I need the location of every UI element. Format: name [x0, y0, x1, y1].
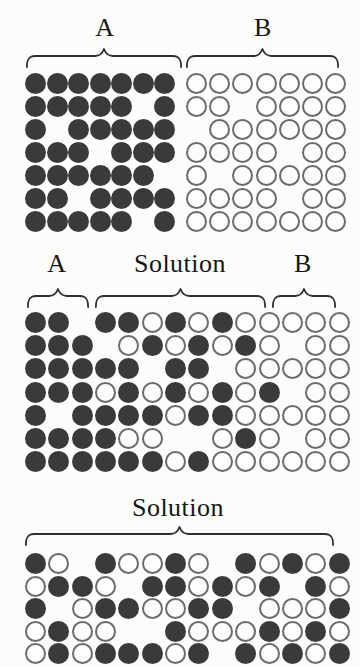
particle-a-filled: [133, 188, 154, 209]
particle-b-open: [256, 96, 277, 117]
particle-a-filled: [188, 643, 209, 664]
particle-b-open: [329, 576, 350, 597]
particle-b-open: [235, 358, 256, 379]
particle-a-filled: [68, 142, 89, 163]
particle-a-filled: [188, 451, 209, 472]
particle-a-filled: [47, 188, 68, 209]
particle-a-filled: [142, 451, 163, 472]
particle-b-open: [256, 165, 277, 186]
particle-b-open: [259, 428, 280, 449]
particle-a-filled: [329, 643, 350, 664]
particle-b-open: [329, 358, 350, 379]
particle-b-open: [212, 451, 233, 472]
particle-a-filled: [212, 312, 233, 333]
particle-a-filled: [72, 576, 93, 597]
particle-a-filled: [47, 211, 68, 232]
particle-b-open: [325, 142, 346, 163]
particle-a-filled: [90, 211, 111, 232]
particle-a-filled: [154, 188, 175, 209]
particle-a-filled: [111, 96, 132, 117]
particle-b-open: [209, 211, 230, 232]
particle-a-filled: [118, 598, 139, 619]
particle-a-filled: [142, 643, 163, 664]
particle-a-filled: [259, 382, 280, 403]
particle-b-open: [259, 643, 280, 664]
particle-a-filled: [48, 451, 69, 472]
particle-a-filled: [25, 188, 46, 209]
particle-a-filled: [212, 576, 233, 597]
particle-a-filled: [95, 598, 116, 619]
particle-b-open: [209, 119, 230, 140]
particle-a-filled: [95, 312, 116, 333]
particle-b-open: [142, 553, 163, 574]
particle-a-filled: [154, 73, 175, 94]
particle-b-open: [48, 553, 69, 574]
particle-b-open: [212, 621, 233, 642]
particle-a-filled: [48, 621, 69, 642]
particle-a-filled: [188, 335, 209, 356]
particle-a-filled: [90, 165, 111, 186]
particle-a-filled: [154, 142, 175, 163]
particle-a-filled: [72, 405, 93, 426]
particle-b-open: [186, 96, 207, 117]
particle-b-open: [165, 335, 186, 356]
particle-b-open: [118, 335, 139, 356]
particle-b-open: [188, 576, 209, 597]
particle-a-filled: [90, 73, 111, 94]
particle-b-open: [118, 553, 139, 574]
particle-b-open: [305, 405, 326, 426]
particle-b-open: [232, 211, 253, 232]
particle-b-open: [95, 382, 116, 403]
particle-b-open: [282, 598, 303, 619]
particle-b-open: [188, 621, 209, 642]
particle-a-filled: [133, 165, 154, 186]
particle-a-filled: [165, 312, 186, 333]
particle-b-open: [329, 335, 350, 356]
particle-b-open: [235, 382, 256, 403]
particle-b-open: [186, 165, 207, 186]
particle-a-filled: [329, 598, 350, 619]
particle-a-filled: [47, 142, 68, 163]
particle-b-open: [209, 188, 230, 209]
particle-b-open: [302, 96, 323, 117]
particle-b-open: [325, 211, 346, 232]
particle-a-filled: [25, 335, 46, 356]
particle-b-open: [72, 621, 93, 642]
particle-a-filled: [188, 358, 209, 379]
particle-b-open: [142, 598, 163, 619]
particle-a-filled: [95, 553, 116, 574]
particle-a-filled: [235, 643, 256, 664]
particle-a-filled: [95, 358, 116, 379]
particle-a-filled: [47, 73, 68, 94]
particle-b-open: [232, 165, 253, 186]
particle-b-open: [302, 142, 323, 163]
particle-a-filled: [165, 621, 186, 642]
particle-b-open: [165, 405, 186, 426]
particle-a-filled: [111, 119, 132, 140]
particle-b-open: [325, 188, 346, 209]
particle-b-open: [259, 553, 280, 574]
particle-b-open: [209, 73, 230, 94]
particle-a-filled: [142, 576, 163, 597]
particle-a-filled: [95, 405, 116, 426]
particle-a-filled: [118, 312, 139, 333]
particle-b-open: [259, 598, 280, 619]
label-substance-b-middle: B: [273, 250, 333, 279]
particle-b-open: [95, 576, 116, 597]
particle-b-open: [305, 335, 326, 356]
particle-b-open: [305, 382, 326, 403]
particle-a-filled: [188, 598, 209, 619]
particle-b-open: [302, 73, 323, 94]
particle-a-filled: [111, 188, 132, 209]
particle-b-open: [165, 598, 186, 619]
particle-b-open: [329, 428, 350, 449]
particle-b-open: [212, 428, 233, 449]
particle-a-filled: [133, 73, 154, 94]
particle-a-filled: [95, 428, 116, 449]
particle-a-filled: [48, 312, 69, 333]
particle-a-filled: [154, 211, 175, 232]
particle-a-filled: [25, 358, 46, 379]
particle-a-filled: [111, 165, 132, 186]
particle-b-open: [305, 451, 326, 472]
particle-a-filled: [25, 211, 46, 232]
